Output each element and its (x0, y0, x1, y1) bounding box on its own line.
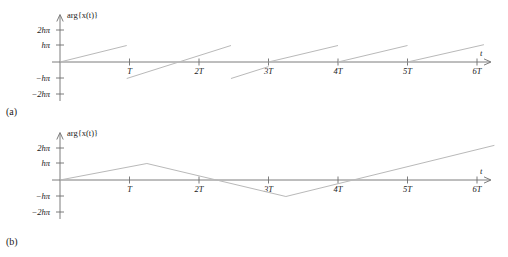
curve-segment-0 (60, 46, 127, 63)
panel-a: 2hπ hπ −hπ −2hπ arg{x(t)} T 2T 3T 4T 5T … (32, 10, 492, 101)
panel-a-x-axis-title: t (480, 48, 483, 58)
panel-a-caption: (a) (6, 106, 17, 118)
curve-segment-4 (338, 46, 408, 63)
panel-a-ylabel-2hpi: 2hπ (37, 25, 51, 35)
panel-b-x-axis-title: t (480, 166, 483, 176)
panel-b: 2hπ hπ −hπ −2hπ arg{x(t)} T 2T 3T 4T 5T … (32, 128, 495, 219)
panel-a-xlabel-5T: 5T (403, 66, 413, 76)
panel-b-xlabel-2T: 2T (195, 184, 205, 194)
panel-a-xlabel-2T: 2T (195, 66, 205, 76)
panel-a-xlabel-6T: 6T (473, 66, 483, 76)
panel-a-y-axis-title: arg{x(t)} (67, 10, 98, 20)
panel-b-xlabel-6T: 6T (473, 184, 483, 194)
panel-b-ylabel-2hpi: 2hπ (37, 143, 51, 153)
panel-b-ylabel-hpi: hπ (41, 158, 50, 168)
panel-b-ylabel-neg-2hpi: −2hπ (32, 207, 51, 217)
figure-canvas: 2hπ hπ −hπ −2hπ arg{x(t)} T 2T 3T 4T 5T … (0, 0, 508, 257)
panel-b-caption: (b) (6, 236, 18, 248)
panel-b-curve (60, 145, 494, 196)
curve-polyline (60, 145, 494, 196)
curve-segment-3 (269, 46, 339, 63)
panel-b-xlabel-5T: 5T (403, 184, 413, 194)
panel-b-y-axis-title: arg{x(t)} (67, 128, 98, 138)
panel-a-xlabel-4T: 4T (334, 66, 344, 76)
panel-a-xlabel-T: T (127, 66, 133, 76)
curve-segment-5 (408, 45, 484, 62)
panel-a-ylabel-neg-hpi: −hπ (36, 73, 51, 83)
curve-segment-2 (231, 67, 269, 79)
panel-a-ylabel-neg-2hpi: −2hπ (32, 89, 51, 99)
phase-plot-figure: 2hπ hπ −hπ −2hπ arg{x(t)} T 2T 3T 4T 5T … (0, 0, 508, 257)
panel-b-ylabel-neg-hpi: −hπ (36, 191, 51, 201)
panel-b-xlabel-4T: 4T (334, 184, 344, 194)
panel-a-ylabel-hpi: hπ (41, 40, 50, 50)
panel-b-xlabel-T: T (127, 184, 133, 194)
